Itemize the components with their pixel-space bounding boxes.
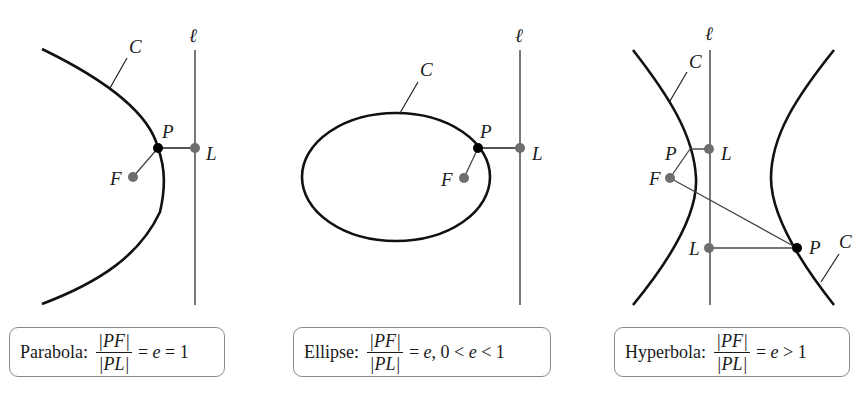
point-p [473,143,483,153]
segment-pf [133,148,158,177]
eccentricity-relation: = e > 1 [756,342,807,363]
label-curve: C [129,36,142,57]
point-f [665,173,675,183]
point-l2 [704,243,714,253]
point-l [515,143,525,153]
label-l: L [205,143,217,164]
label-f: F [109,168,122,189]
point-f [128,172,138,182]
eccentricity-relation: = e, 0 < e < 1 [409,342,505,363]
eccentricity-symbol: e [424,342,432,362]
eccentricity-symbol-2: e [469,342,477,362]
ellipse-caption: Ellipse: |PF| |PL| = e, 0 < e < 1 [293,327,551,377]
label-directrix: ℓ [705,23,713,44]
fraction-denominator: |PL| [714,353,749,373]
label-curve-2: C [839,231,852,252]
hyperbola-left-branch [633,50,696,305]
label-curve: C [689,51,702,72]
ellipse-panel: ℓ C P L F [302,25,543,305]
label-curve: C [420,59,433,80]
label-l1: L [720,143,732,164]
point-l1 [704,144,714,154]
relation-pre: = [138,342,153,362]
relation-post: = 1 [161,342,189,362]
relation-post-2: < 1 [477,342,505,362]
point-f [459,173,469,183]
eccentricity-fraction: |PF| |PL| [714,332,750,373]
label-directrix: ℓ [515,25,523,46]
conic-sections-diagram: ℓ C P L F ℓ C P L F ℓ C C [0,0,864,320]
fraction-numerator: |PF| [367,332,403,353]
hyperbola-panel: ℓ C C P P L L F [633,23,852,305]
label-p: P [161,121,174,142]
fraction-denominator: |PL| [96,353,131,373]
eccentricity-symbol: e [771,342,779,362]
hyperbola-caption: Hyperbola: |PF| |PL| = e > 1 [614,327,850,377]
eccentricity-fraction: |PF| |PL| [96,332,132,373]
fraction-denominator: |PL| [367,353,402,373]
label-f: F [440,169,453,190]
parabola-curve [42,49,164,304]
fraction-numerator: |PF| [96,332,132,353]
point-p [153,143,163,153]
curve-leader-line [110,58,127,88]
parabola-panel: ℓ C P L F [42,25,217,305]
point-l [190,143,200,153]
parabola-caption: Parabola: |PF| |PL| = e = 1 [9,327,225,377]
relation-post: > 1 [779,342,807,362]
eccentricity-fraction: |PF| |PL| [367,332,403,373]
label-p2: P [808,237,821,258]
caption-name: Parabola: [20,342,88,363]
label-f: F [648,168,661,189]
label-l: L [531,143,543,164]
relation-pre: = [409,342,424,362]
eccentricity-relation: = e = 1 [138,342,189,363]
caption-name: Hyperbola: [625,342,706,363]
curve-leader-line [400,82,418,113]
curve-leader-line-left [670,72,687,101]
point-p2 [792,243,802,253]
relation-pre: = [756,342,771,362]
eccentricity-symbol: e [153,342,161,362]
label-p1: P [664,143,677,164]
curve-leader-line-right [821,254,839,282]
caption-name: Ellipse: [304,342,359,363]
label-directrix: ℓ [189,25,197,46]
relation-post: , 0 < [432,342,469,362]
hyperbola-right-branch [771,50,834,305]
label-l2: L [688,238,700,259]
fraction-numerator: |PF| [714,332,750,353]
label-p: P [479,121,492,142]
